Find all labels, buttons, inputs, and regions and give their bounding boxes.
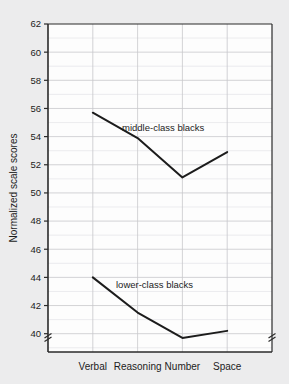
y-tick-label: 62 <box>30 18 41 29</box>
y-tick-label: 48 <box>30 215 41 226</box>
annotation-lower-class-blacks: lower-class blacks <box>116 279 193 290</box>
y-tick-label: 52 <box>30 159 41 170</box>
y-tick-label: 42 <box>30 300 41 311</box>
line-chart: 404244464850525456586062 middle-class bl… <box>0 0 289 384</box>
y-tick-label: 50 <box>30 187 41 198</box>
plot-background <box>48 24 272 352</box>
y-tick-label: 56 <box>30 103 41 114</box>
annotation-middle-class-blacks: middle-class blacks <box>122 122 205 133</box>
y-tick-label: 60 <box>30 47 41 58</box>
x-axis-tick-labels: VerbalReasoningNumberSpace <box>79 361 242 372</box>
x-tick-label-verbal: Verbal <box>79 361 107 372</box>
y-tick-label: 44 <box>30 272 41 283</box>
chart-container: 404244464850525456586062 middle-class bl… <box>0 0 289 384</box>
x-tick-label-number: Number <box>165 361 201 372</box>
y-axis-title: Normalized scale scores <box>8 134 19 243</box>
y-tick-label: 58 <box>30 75 41 86</box>
y-tick-label: 54 <box>30 131 41 142</box>
x-tick-label-space: Space <box>213 361 242 372</box>
y-tick-label: 40 <box>30 328 41 339</box>
y-tick-label: 46 <box>30 244 41 255</box>
x-tick-label-reasoning: Reasoning <box>114 361 162 372</box>
